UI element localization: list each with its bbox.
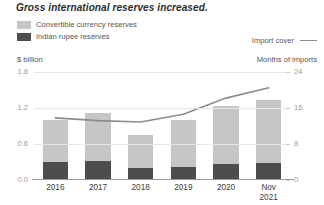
y-tick-mark-right [286, 180, 290, 181]
bar-series [34, 72, 290, 180]
x-tick-label: 2020 [205, 183, 248, 193]
x-tick-label: Nov2021 [247, 183, 290, 203]
legend-item-convertible-currency-reserves[interactable]: Convertible currency reserves [17, 19, 137, 30]
y-tick-mark-right [286, 72, 290, 73]
bar-segment-indian-rupee-reserves[interactable] [213, 164, 239, 180]
bar-segment-indian-rupee-reserves[interactable] [85, 161, 111, 180]
x-axis-labels: 20162017201820192020Nov2021 [34, 183, 290, 205]
bar-group[interactable] [171, 120, 197, 180]
x-tick-label-line1: 2017 [77, 183, 120, 193]
x-tick-label-line1: 2018 [119, 183, 162, 193]
plot-area [34, 72, 290, 180]
legend-swatch-convertible-currency-reserves [17, 21, 31, 29]
legend-swatch-indian-rupee-reserves [17, 33, 31, 41]
bar-group[interactable] [128, 135, 154, 180]
y-tick-label-right: 24 [294, 67, 320, 76]
legend: Convertible currency reserves Indian rup… [17, 19, 137, 43]
y-tick-label-left: 0.0 [4, 175, 28, 184]
chart-title: Gross international reserves increased. [16, 2, 208, 13]
y-tick-mark-right [286, 108, 290, 109]
x-tick-label-line1: Nov [247, 183, 290, 193]
x-tick-label: 2017 [77, 183, 120, 193]
bar-segment-indian-rupee-reserves[interactable] [256, 163, 282, 180]
legend-label-convertible-currency-reserves: Convertible currency reserves [36, 20, 137, 29]
legend-item-indian-rupee-reserves[interactable]: Indian rupee reserves [17, 31, 137, 42]
y-tick-label-right: 16 [294, 103, 320, 112]
x-tick-label: 2016 [34, 183, 77, 193]
x-tick-label: 2018 [119, 183, 162, 193]
bar-group[interactable] [85, 113, 111, 180]
gridline [34, 144, 290, 145]
x-tick-label-line2: 2021 [247, 193, 290, 203]
x-tick-label: 2019 [162, 183, 205, 193]
y-axis-title-right: Months of imports [257, 55, 317, 64]
legend-line-marker-import-cover [300, 40, 317, 41]
bar-segment-convertible-currency-reserves[interactable] [128, 135, 154, 168]
x-axis-baseline [32, 179, 294, 180]
y-tick-label-left: 0.6 [4, 139, 28, 148]
legend-label-import-cover: Import cover [252, 36, 294, 45]
bar-segment-convertible-currency-reserves[interactable] [256, 100, 282, 163]
y-tick-label-left: 1.8 [4, 67, 28, 76]
y-tick-label-right: 8 [294, 139, 320, 148]
bar-segment-convertible-currency-reserves[interactable] [213, 106, 239, 164]
gridline [34, 108, 290, 109]
y-tick-mark-right [286, 144, 290, 145]
bar-segment-convertible-currency-reserves[interactable] [85, 113, 111, 161]
x-tick-label-line1: 2019 [162, 183, 205, 193]
chart-root: Gross international reserves increased. … [0, 0, 324, 205]
y-axis-title-left: $ billion [17, 55, 43, 64]
x-tick-label-line1: 2016 [34, 183, 77, 193]
bar-group[interactable] [43, 120, 69, 180]
legend-label-indian-rupee-reserves: Indian rupee reserves [36, 32, 109, 41]
y-tick-label-right: 0 [294, 175, 320, 184]
legend-item-import-cover[interactable]: Import cover [252, 36, 317, 45]
x-tick-label-line1: 2020 [205, 183, 248, 193]
y-tick-label-left: 1.2 [4, 103, 28, 112]
bar-group[interactable] [256, 100, 282, 180]
bar-segment-indian-rupee-reserves[interactable] [43, 162, 69, 180]
gridline [34, 72, 290, 73]
bar-segment-convertible-currency-reserves[interactable] [43, 120, 69, 162]
